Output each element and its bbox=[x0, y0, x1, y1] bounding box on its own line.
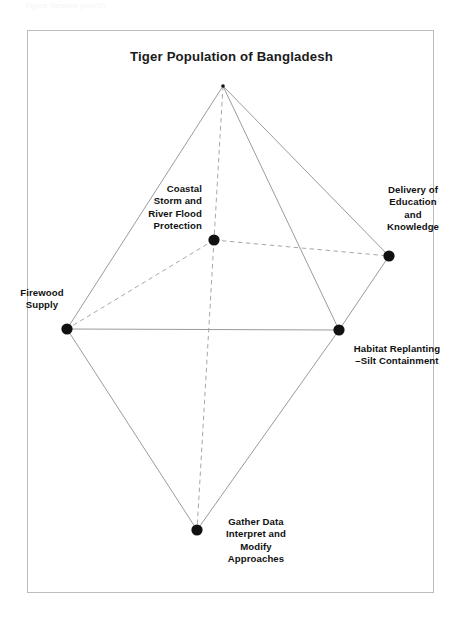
node-label-gather: Gather Data Interpret and Modify Approac… bbox=[212, 516, 300, 566]
node-label-habitat: Habitat Replanting –Silt Containment bbox=[341, 343, 453, 368]
node-label-firewood: Firewood Supply bbox=[7, 287, 77, 312]
figure-frame: Tiger Population of Bangladesh bbox=[27, 30, 434, 593]
node-label-delivery: Delivery of Education and Knowledge bbox=[376, 184, 450, 234]
scan-header-text: Figure Network (cont'd) bbox=[0, 0, 455, 14]
chart-title: Tiger Population of Bangladesh bbox=[28, 49, 435, 64]
node-label-coastal: Coastal Storm and River Flood Protection bbox=[116, 183, 202, 233]
